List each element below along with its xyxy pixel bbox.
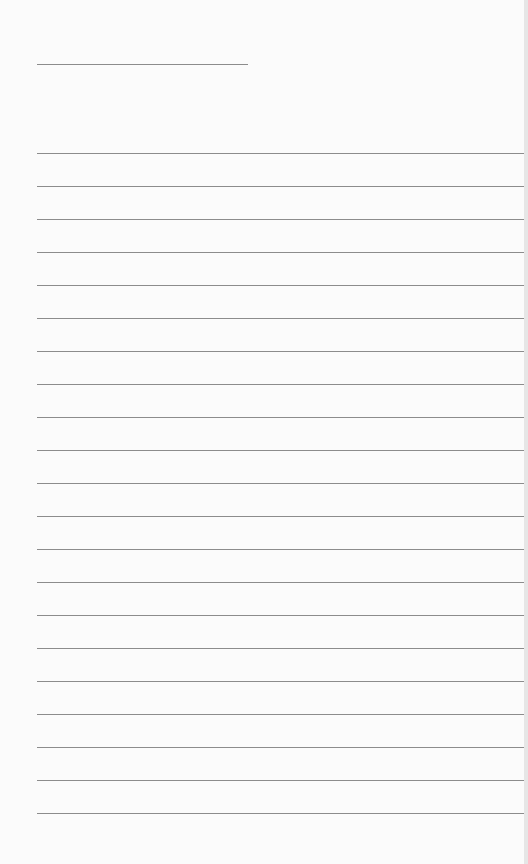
ruled-line xyxy=(37,549,524,550)
ruled-line xyxy=(37,813,524,814)
ruled-line xyxy=(37,285,524,286)
header-line xyxy=(37,64,248,65)
ruled-line xyxy=(37,582,524,583)
ruled-line xyxy=(37,648,524,649)
ruled-line xyxy=(37,219,524,220)
ruled-line xyxy=(37,153,524,154)
ruled-line xyxy=(37,186,524,187)
ruled-line xyxy=(37,417,524,418)
ruled-line xyxy=(37,747,524,748)
ruled-line xyxy=(37,318,524,319)
ruled-line xyxy=(37,252,524,253)
ruled-line xyxy=(37,483,524,484)
ruled-line xyxy=(37,351,524,352)
ruled-line xyxy=(37,516,524,517)
ruled-line xyxy=(37,780,524,781)
ruled-line xyxy=(37,714,524,715)
ruled-line xyxy=(37,450,524,451)
page-edge xyxy=(524,0,528,864)
ruled-line xyxy=(37,615,524,616)
ruled-line xyxy=(37,681,524,682)
paper-sheet xyxy=(0,0,524,864)
ruled-line xyxy=(37,384,524,385)
